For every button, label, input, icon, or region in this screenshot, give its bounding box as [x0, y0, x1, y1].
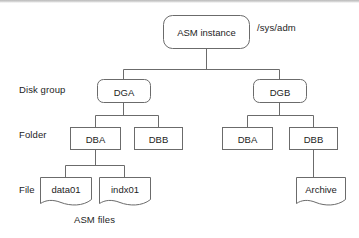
node-shape-folder-dbb-left	[135, 128, 183, 150]
row-label-disk-group: Disk group	[19, 84, 65, 95]
row-label-file: File	[19, 184, 35, 195]
annotation-sys-adm-path: /sys/adm	[257, 22, 296, 33]
row-label-folder: Folder	[19, 129, 47, 140]
node-shape-asm-instance	[164, 16, 250, 49]
diagram-canvas	[0, 0, 359, 238]
node-shape-dga	[98, 80, 151, 103]
node-shape-folder-dba-left	[71, 128, 121, 150]
caption-asm-files: ASM files	[74, 214, 115, 225]
node-shape-file-indx01	[100, 178, 151, 205]
asm-hierarchy-diagram: Disk group Folder File /sys/adm ASM file…	[0, 0, 359, 238]
node-shape-file-data01	[41, 178, 92, 205]
node-shape-folder-dbb-right	[290, 128, 338, 150]
node-shape-dgb	[254, 80, 307, 103]
node-shape-folder-dba-right	[223, 128, 273, 150]
node-shape-file-archive	[297, 178, 346, 205]
